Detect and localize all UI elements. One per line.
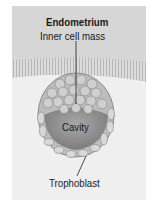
inner-cell-mass-label: Inner cell mass	[40, 30, 105, 42]
trophoblast-label: Trophoblast	[49, 177, 100, 189]
endometrium-label: Endometrium	[46, 16, 108, 28]
cavity-label: Cavity	[62, 121, 89, 133]
